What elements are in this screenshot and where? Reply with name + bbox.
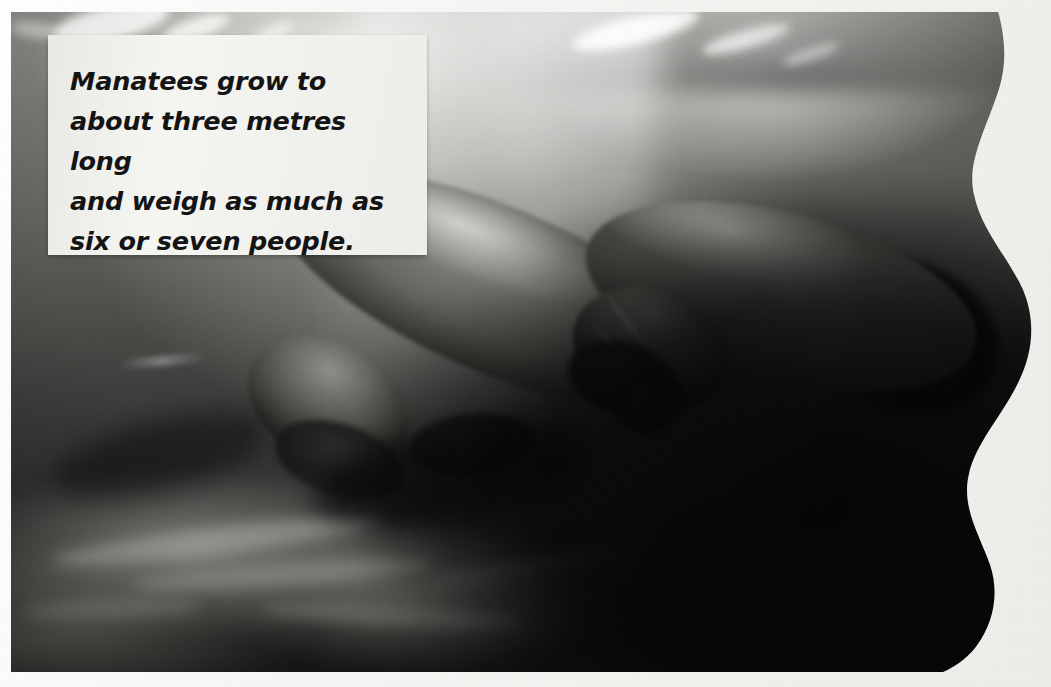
page-root: Manatees grow to about three metres long… bbox=[0, 0, 1051, 687]
deep-water-shadow bbox=[373, 192, 1033, 672]
caption-line-4: six or seven people. bbox=[70, 221, 409, 261]
caption-line-2: about three metres long bbox=[70, 101, 409, 181]
caption-box: Manatees grow to about three metres long… bbox=[48, 35, 427, 255]
caption-line-3: and weigh as much as bbox=[70, 181, 409, 221]
caption-line-1: Manatees grow to bbox=[70, 61, 409, 101]
